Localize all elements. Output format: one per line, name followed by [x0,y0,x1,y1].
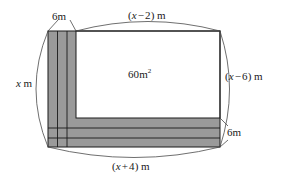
area-unit: m [139,68,148,80]
top-unit: m [154,9,165,21]
area-value: 60 [128,68,139,80]
bottom-variable: x [116,160,121,172]
brace-top [76,22,220,32]
brace-left [36,31,48,147]
dimension-label-right: (x−6)m [225,71,263,82]
horizontal-shaded-band [48,118,220,147]
dimension-label-top: (x−2)m [128,10,166,21]
dimension-label-left: xm [16,78,32,89]
bottom-operator: + [121,160,129,172]
right-operator: − [234,70,242,82]
horizontal-band-height-label: 6m [227,127,241,138]
area-exponent: 2 [148,67,152,75]
left-unit: m [21,77,32,89]
top-operator: − [137,9,145,21]
brace-bottom [48,147,220,158]
area-label: 60m2 [128,69,151,80]
right-variable: x [229,70,234,82]
top-variable: x [132,9,137,21]
vband-leader-line-2 [70,20,76,31]
dimension-label-bottom: (x+4)m [112,161,150,172]
bottom-unit: m [138,160,149,172]
geometry-figure: (x−2)m (x−6)m (x+4)m xm 60m2 6m 6m [0,0,287,188]
right-unit: m [251,70,262,82]
vertical-band-width-label: 6m [52,11,66,22]
